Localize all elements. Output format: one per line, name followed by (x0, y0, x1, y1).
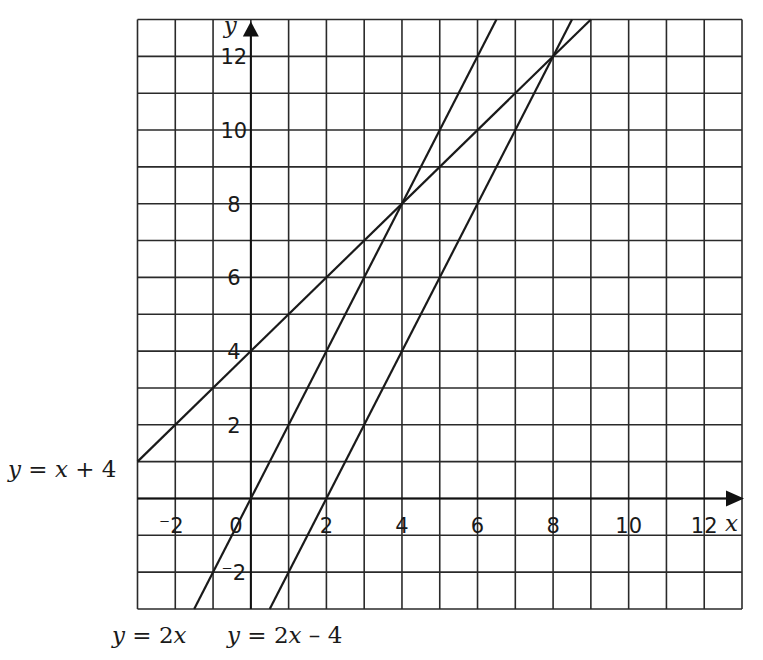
x-tick-label: 8 (546, 514, 559, 538)
label-c-y: y (226, 622, 241, 648)
tick-labels: ⁻2024681012⁻224681012 (159, 45, 718, 585)
y-tick-label: 12 (220, 45, 247, 69)
y-axis-label: y (223, 12, 238, 38)
y-tick-label: 6 (227, 266, 240, 290)
y-tick-label: 8 (227, 193, 240, 217)
x-tick-label: 10 (615, 514, 642, 538)
x-tick-label: 4 (395, 514, 408, 538)
label-c-eq: = 2 (240, 622, 289, 648)
label-b-x: x (174, 622, 187, 648)
y-tick-label: 10 (220, 119, 247, 143)
y-tick-label: 4 (227, 340, 240, 364)
y-axis-arrow-icon (243, 22, 259, 37)
label-a-x: x (55, 456, 68, 482)
label-a-eq: = (21, 456, 55, 482)
x-tick-label: 2 (320, 514, 333, 538)
label-a-y: y (7, 456, 22, 482)
label-c-x: x (289, 622, 302, 648)
x-tick-label: 12 (691, 514, 718, 538)
x-axis-label: x (725, 510, 738, 536)
label-b-eq: = 2 (125, 622, 174, 648)
series-label-y-eq-2x: y = 2x (111, 622, 187, 648)
x-tick-label: 6 (471, 514, 484, 538)
label-b-y: y (111, 622, 126, 648)
series-label-y-eq-2x-minus-4: y = 2x – 4 (226, 622, 342, 648)
linear-graphs-chart: x y ⁻2024681012⁻224681012 y = x + 4 y = … (0, 0, 763, 660)
y-tick-label: ⁻2 (222, 561, 246, 585)
label-c-rest: – 4 (302, 622, 343, 648)
series-label-y-eq-x-plus-4: y = x + 4 (7, 456, 116, 482)
y-tick-label: 2 (227, 414, 240, 438)
x-tick-label: ⁻2 (159, 514, 183, 538)
label-a-rest: + 4 (68, 456, 117, 482)
